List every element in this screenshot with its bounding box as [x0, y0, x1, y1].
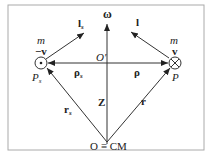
rho-s-label: ρs: [74, 66, 83, 80]
origin-cm-label: O ≡ CM: [90, 140, 127, 152]
z-label: Z: [98, 96, 105, 108]
r-label: r: [141, 95, 146, 107]
diagram-canvas: ω ls l m −v m v O′ ρs ρ Ps P rs Z r O ≡ …: [0, 0, 214, 159]
l-s-label: ls: [78, 17, 84, 31]
rho-label: ρ: [134, 66, 140, 78]
ps-label: Ps: [31, 71, 42, 85]
velocity-label: v: [172, 45, 178, 57]
l-label: l: [136, 16, 139, 28]
omega-label: ω: [103, 7, 112, 21]
l-s-vector: [46, 33, 84, 59]
neg-velocity-label: −v: [35, 45, 47, 57]
r-s-label: rs: [64, 103, 72, 117]
o-prime-label: O′: [96, 51, 107, 63]
particle-p-into-page-icon: [169, 57, 181, 69]
p-label: P: [171, 71, 179, 83]
r-vector: [107, 68, 170, 142]
l-vector: [131, 32, 169, 58]
